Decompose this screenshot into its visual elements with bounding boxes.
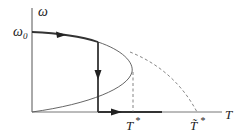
right-arrow-icon — [111, 109, 122, 116]
omega0-subscript: 0 — [23, 31, 28, 41]
right-arrow-icon — [56, 32, 66, 39]
t-star-superscript: * — [135, 115, 140, 126]
parabolic-branch-curve — [32, 42, 132, 112]
t-star-label: T — [126, 118, 134, 133]
upper-branch-curve — [32, 32, 98, 42]
bifurcation-diagram: ω ω 0 T * T̃ * T — [0, 0, 246, 136]
dashed-continuation-curve — [130, 52, 197, 112]
omega0-label: ω — [13, 24, 23, 39]
t-tilde-star-label: T̃ — [190, 118, 198, 133]
t-axis-label: T — [225, 107, 233, 122]
t-tilde-star-superscript: * — [200, 115, 205, 126]
down-arrow-icon — [95, 70, 102, 80]
omega-axis-label: ω — [38, 4, 48, 19]
